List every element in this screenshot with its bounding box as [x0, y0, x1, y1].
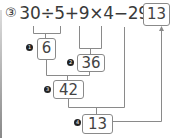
answer-box[interactable]: 13: [143, 3, 170, 26]
step-1-box: 6: [37, 38, 56, 60]
step-1-value: 6: [42, 39, 52, 57]
step-2-value: 36: [81, 54, 100, 72]
problem-number: ③: [5, 5, 16, 20]
expression-text: 30÷5+9×4−29=: [19, 3, 162, 23]
answer-value: 13: [147, 5, 166, 23]
step-1-marker-icon: 1: [26, 44, 33, 51]
step-3-value: 42: [59, 81, 78, 99]
step-2-box: 36: [77, 54, 105, 72]
step-2-marker-icon: 2: [67, 59, 74, 66]
step-3-box: 42: [53, 80, 84, 99]
step-4-marker-icon: 4: [74, 119, 81, 126]
step-4-box: 13: [82, 114, 113, 134]
step-4-value: 13: [88, 115, 107, 133]
expression-line: ③30÷5+9×4−29=: [5, 2, 163, 24]
step-3-marker-icon: 3: [44, 86, 51, 93]
